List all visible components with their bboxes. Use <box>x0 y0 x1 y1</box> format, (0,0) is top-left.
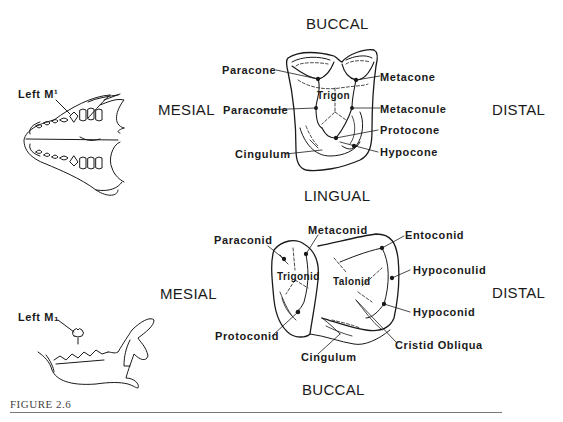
hypocone-label: Hypocone <box>380 146 438 158</box>
upper-orientation-mesial: MESIAL <box>158 102 215 118</box>
upper-orientation-distal: DISTAL <box>492 102 545 118</box>
upper-orientation-buccal: BUCCAL <box>306 16 369 32</box>
hypoconulid-label: Hypoconulid <box>413 264 486 276</box>
mandible-icon <box>38 319 154 388</box>
talonid-label: Talonid <box>333 276 371 287</box>
entoconid-label: Entoconid <box>405 229 464 241</box>
left-m1-lower-label: Left M₁ <box>18 311 59 323</box>
caption-divider <box>10 412 502 413</box>
upper-cingulum-label: Cingulum <box>235 148 291 160</box>
lower-cingulum-label: Cingulum <box>301 351 357 363</box>
metacone-label: Metacone <box>380 71 436 83</box>
paraconule-label: Paraconule <box>223 104 288 116</box>
trigonid-label: Trigonid <box>277 271 320 282</box>
lower-molar-icon <box>272 234 399 344</box>
trigon-label: Trigon <box>317 90 350 101</box>
lower-orientation-buccal: BUCCAL <box>302 382 365 398</box>
protoconid-label: Protoconid <box>215 330 279 342</box>
hypoconid-label: Hypoconid <box>413 306 475 318</box>
lower-orientation-distal: DISTAL <box>492 285 545 301</box>
figure-caption: FIGURE 2.6 <box>10 398 71 410</box>
skull-palate-icon <box>24 94 124 195</box>
upper-orientation-lingual: LINGUAL <box>304 188 370 204</box>
protocone-label: Protocone <box>380 124 440 136</box>
metaconule-label: Metaconule <box>380 103 447 115</box>
lower-orientation-mesial: MESIAL <box>160 286 217 302</box>
paracone-label: Paracone <box>222 64 276 76</box>
paraconid-label: Paraconid <box>214 234 273 246</box>
metaconid-label: Metaconid <box>308 224 368 236</box>
left-m1-upper-label: Left M¹ <box>18 88 58 100</box>
dental-diagram-artwork <box>0 0 563 422</box>
cristid-obliqua-label: Cristid Obliqua <box>395 339 483 351</box>
lower-leader-lines <box>268 235 410 354</box>
